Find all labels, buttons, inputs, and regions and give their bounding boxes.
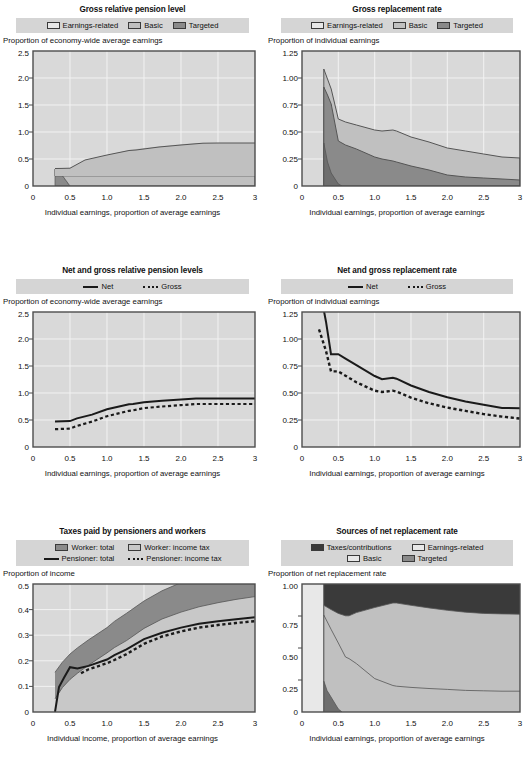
legend: Earnings-related Basic Targeted (281, 18, 513, 33)
svg-text:1.0: 1.0 (101, 193, 113, 202)
svg-text:1.0: 1.0 (101, 454, 113, 463)
swatch-worker-income-tax (128, 544, 141, 551)
svg-text:1.00: 1.00 (282, 582, 298, 591)
legend-item-basic: Basic (393, 21, 428, 30)
svg-text:0.1: 0.1 (18, 682, 30, 691)
svg-text:0.4: 0.4 (18, 606, 30, 615)
panel-net-and-gross-relative-pension-levels: Net and gross relative pension levels Ne… (0, 261, 265, 522)
legend-label: Gross (426, 282, 446, 291)
chart-svg: 00.10.2 0.30.40.5 00.51.0 1.52.02.53 (3, 578, 261, 736)
svg-text:0: 0 (300, 454, 305, 463)
svg-text:1.5: 1.5 (18, 101, 30, 110)
dashed-swatch-pensioner-income-tax (128, 558, 143, 560)
svg-text:2.5: 2.5 (212, 719, 224, 728)
legend-item-net: Net (348, 282, 378, 291)
svg-text:0: 0 (31, 719, 36, 728)
svg-text:2.5: 2.5 (212, 193, 224, 202)
svg-text:0.25: 0.25 (282, 685, 298, 694)
svg-text:2.0: 2.0 (442, 193, 454, 202)
dashed-swatch-gross (143, 286, 158, 288)
y-axis-label: Proportion of net replacement rate (268, 569, 529, 578)
chart-svg: 00.250.50 0.751.001.25 00.51.0 1.52.02.5… (268, 306, 526, 471)
swatch-taxes-contributions (311, 544, 324, 551)
svg-text:0: 0 (25, 443, 30, 452)
svg-text:0.50: 0.50 (282, 389, 298, 398)
y-axis-label: Proportion of economy-wide average earni… (3, 297, 265, 306)
legend-label: Targeted (418, 554, 448, 563)
svg-text:2.0: 2.0 (18, 335, 30, 344)
svg-text:1.5: 1.5 (138, 193, 150, 202)
legend-label: Worker: total (71, 543, 114, 552)
legend-item-worker-total: Worker: total (55, 543, 114, 552)
svg-text:0: 0 (25, 708, 30, 717)
svg-text:0: 0 (31, 193, 36, 202)
legend-item-earnings-related: Earnings-related (47, 21, 119, 30)
chart-svg: 00.250.50 0.751.00 00.51.0 1.52.02.53 (268, 578, 526, 736)
plot-area: 00.10.2 0.30.40.5 00.51.0 1.52.02.53 (3, 578, 265, 736)
svg-text:2.0: 2.0 (175, 454, 187, 463)
plot-area: 00.250.50 0.751.001.25 00.51.0 1.52.02.5… (268, 45, 529, 210)
svg-text:3: 3 (253, 454, 258, 463)
svg-text:0.75: 0.75 (282, 362, 298, 371)
legend-label: Basic (363, 554, 382, 563)
svg-text:0.5: 0.5 (64, 454, 76, 463)
panel-taxes-paid-by-pensioners-and-workers: Taxes paid by pensioners and workers Wor… (0, 522, 265, 783)
svg-text:0: 0 (294, 182, 299, 191)
svg-text:0.5: 0.5 (333, 719, 345, 728)
svg-text:1.5: 1.5 (18, 362, 30, 371)
legend-item-pensioner-income-tax: Pensioner: income tax (128, 554, 221, 563)
chart-svg: 00.250.50 0.751.001.25 00.51.0 1.52.02.5… (268, 45, 526, 210)
figure-grid: Gross relative pension level Earnings-re… (0, 0, 529, 783)
svg-text:2.0: 2.0 (175, 193, 187, 202)
panel-net-and-gross-replacement-rate: Net and gross replacement rate Net Gross… (265, 261, 529, 522)
y-axis-label: Proportion of income (3, 569, 265, 578)
legend-item-targeted: Targeted (437, 21, 483, 30)
svg-text:0.50: 0.50 (282, 653, 298, 662)
svg-text:1.00: 1.00 (282, 335, 298, 344)
svg-text:0.50: 0.50 (282, 128, 298, 137)
svg-text:0.5: 0.5 (333, 193, 345, 202)
svg-text:3: 3 (518, 454, 523, 463)
legend-item-targeted: Targeted (173, 21, 219, 30)
legend-label: Basic (409, 21, 428, 30)
panel-sources-of-net-replacement-rate: Sources of net replacement rate Taxes/co… (265, 522, 529, 783)
svg-text:1.00: 1.00 (282, 74, 298, 83)
legend-item-basic: Basic (128, 21, 163, 30)
svg-text:0.5: 0.5 (18, 155, 30, 164)
svg-text:1.0: 1.0 (369, 719, 381, 728)
panel-title: Taxes paid by pensioners and workers (0, 522, 265, 536)
legend-label: Net (366, 282, 378, 291)
svg-text:2.5: 2.5 (18, 310, 30, 319)
swatch-earnings-related (412, 544, 425, 551)
svg-text:3: 3 (253, 193, 258, 202)
svg-text:2.5: 2.5 (212, 454, 224, 463)
plot-area: 00.51.0 1.52.02.5 00.51.0 1.52.02.53 (3, 306, 265, 471)
svg-text:1.0: 1.0 (369, 193, 381, 202)
panel-gross-replacement-rate: Gross replacement rate Earnings-related … (265, 0, 529, 261)
chart-svg: 00.51.0 1.52.02.5 00.51.0 1.52.02.53 (3, 45, 261, 210)
svg-text:1.25: 1.25 (282, 49, 298, 58)
panel-title: Gross relative pension level (0, 0, 265, 14)
legend: Net Gross (16, 279, 249, 294)
svg-text:1.5: 1.5 (138, 719, 150, 728)
legend-item-gross: Gross (143, 282, 181, 291)
chart-svg: 00.51.0 1.52.02.5 00.51.0 1.52.02.53 (3, 306, 261, 471)
svg-text:1.0: 1.0 (18, 128, 30, 137)
panel-title: Gross replacement rate (265, 0, 529, 14)
legend: Worker: total Worker: income tax Pension… (16, 540, 249, 566)
svg-text:3: 3 (518, 193, 523, 202)
swatch-targeted (173, 22, 186, 29)
legend-label: Basic (144, 21, 163, 30)
y-axis-label: Proportion of individual earnings (268, 297, 529, 306)
panel-title: Sources of net replacement rate (265, 522, 529, 536)
swatch-basic (393, 22, 406, 29)
svg-text:0.75: 0.75 (282, 621, 298, 630)
svg-text:1.0: 1.0 (18, 389, 30, 398)
legend-item-earnings-related: Earnings-related (311, 21, 383, 30)
legend-label: Targeted (189, 21, 219, 30)
legend-label: Earnings-related (428, 543, 484, 552)
swatch-earnings-related (311, 22, 324, 29)
legend-label: Targeted (453, 21, 483, 30)
legend-item-gross: Gross (408, 282, 446, 291)
svg-text:0.5: 0.5 (18, 582, 30, 591)
